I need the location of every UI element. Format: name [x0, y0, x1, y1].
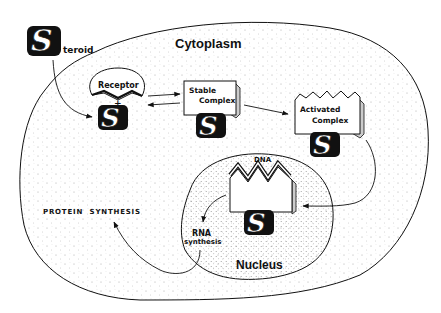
stable-complex-line2: Complex [199, 96, 235, 105]
receptor-label: Receptor [98, 81, 139, 90]
activated-complex-line1: Activated [300, 105, 340, 114]
diagram-canvas: Cytoplasm Nucleus S teroid Receptor + S … [0, 0, 441, 313]
steroid-label: teroid [63, 45, 94, 55]
steroid-s-letter: S [31, 23, 53, 58]
activated-complex-line2: Complex [312, 116, 348, 125]
dna-label: DNA [254, 156, 272, 164]
steroid-molecule: S teroid [27, 23, 94, 58]
cytoplasm-label: Cytoplasm [175, 36, 241, 51]
nucleus-label: Nucleus [236, 258, 283, 272]
s-letter-activated: S [313, 130, 332, 160]
s-letter-stable: S [199, 111, 218, 141]
rna-label: RNA [192, 229, 212, 238]
stable-complex-line1: Stable [189, 86, 216, 95]
s-letter-receptor: S [101, 103, 120, 133]
protein-synthesis-label: PROTEIN SYNTHESIS [43, 208, 141, 216]
s-letter-dna: S [247, 208, 266, 238]
steroid-at-receptor: S [98, 103, 128, 133]
rna-synthesis-label: synthesis [184, 238, 222, 246]
